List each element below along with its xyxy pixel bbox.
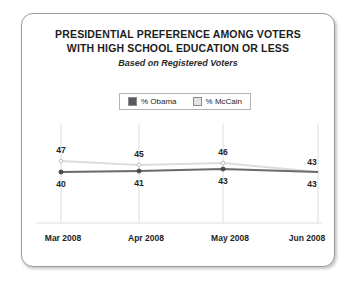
value-label-obama-1: 41 [134,178,143,188]
value-label-obama-3: 43 [307,179,316,189]
chart-gridlines [61,124,318,223]
x-axis-label-apr-2008: Apr 2008 [128,233,164,243]
value-label-obama-2: 43 [218,176,227,186]
value-label-obama-0: 40 [56,179,65,189]
chart-plot-area [22,14,335,267]
chart-card: PRESIDENTIAL PREFERENCE AMONG VOTERS WIT… [21,13,335,267]
value-label-mccain-0: 47 [56,145,65,155]
value-label-mccain-1: 45 [134,149,143,159]
x-axis-label-may-2008: May 2008 [211,233,249,243]
x-axis-label-jun-2008: Jun 2008 [289,233,325,243]
value-label-mccain-3: 43 [307,157,316,167]
x-axis-label-mar-2008: Mar 2008 [45,233,81,243]
value-label-mccain-2: 46 [218,147,227,157]
